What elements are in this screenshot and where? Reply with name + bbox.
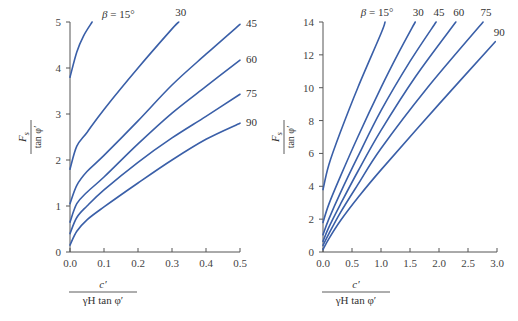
svg-text:c′: c′ <box>352 278 360 290</box>
curve-beta-15 <box>70 22 92 77</box>
y-tick-label: 4 <box>56 62 62 74</box>
x-tick-label: 0.5 <box>233 257 247 269</box>
svg-text:γH tan φ′: γH tan φ′ <box>82 294 124 306</box>
y-tick-label: 0 <box>56 246 62 258</box>
curve-label: 60 <box>453 6 465 18</box>
svg-text:Fs: Fs <box>269 132 284 143</box>
svg-text:Fs: Fs <box>16 132 31 143</box>
x-tick-label: 2.5 <box>461 257 475 269</box>
x-tick-label: 0.2 <box>131 257 145 269</box>
x-tick-label: 0.0 <box>63 257 77 269</box>
curve-label: 30 <box>175 6 187 18</box>
curve-label: 30 <box>413 6 425 18</box>
x-tick-label: 0.1 <box>97 257 111 269</box>
curve-beta-45 <box>323 22 436 235</box>
y-tick-label: 2 <box>56 154 62 166</box>
y-tick-label: 2 <box>309 213 315 225</box>
y-tick-label: 0 <box>309 246 315 258</box>
y-tick-label: 5 <box>56 16 62 28</box>
x-tick-label: 0.5 <box>345 257 359 269</box>
left-chart: 0.00.10.20.30.40.5012345β = 15°304560759… <box>56 6 258 269</box>
y-tick-label: 6 <box>309 147 315 159</box>
x-tick-label: 2.0 <box>432 257 446 269</box>
y-tick-label: 3 <box>56 108 62 120</box>
y-tick-label: 10 <box>303 82 315 94</box>
curve-label: 45 <box>246 17 258 29</box>
x-tick-label: 0.3 <box>165 257 179 269</box>
x-tick-label: 0.0 <box>316 257 330 269</box>
x-tick-label: 1.0 <box>374 257 388 269</box>
right-y-axis-label: Fs tan φ′ <box>269 120 296 154</box>
x-tick-label: 3.0 <box>490 257 504 269</box>
svg-text:c′: c′ <box>99 278 107 290</box>
curve-label: β = 15° <box>101 8 135 20</box>
svg-text:tan φ′: tan φ′ <box>285 126 296 149</box>
svg-text:γH tan φ′: γH tan φ′ <box>335 294 377 306</box>
curve-label: 45 <box>434 6 446 18</box>
y-tick-label: 8 <box>309 115 315 127</box>
right-x-axis-label: c′ γH tan φ′ <box>322 278 390 306</box>
y-tick-label: 4 <box>309 180 315 192</box>
curve-label: 90 <box>246 116 258 128</box>
y-tick-label: 1 <box>56 200 62 212</box>
curve-label: 75 <box>481 6 493 18</box>
left-y-axis-label: Fs tan φ′ <box>16 120 43 154</box>
left-x-axis-label: c′ γH tan φ′ <box>69 278 137 306</box>
y-tick-label: 14 <box>303 16 315 28</box>
svg-text:tan φ′: tan φ′ <box>32 126 43 149</box>
x-tick-label: 1.5 <box>403 257 417 269</box>
x-tick-label: 0.4 <box>199 257 213 269</box>
curve-label: 75 <box>246 87 258 99</box>
curve-beta-90 <box>323 42 495 250</box>
y-tick-label: 12 <box>303 49 314 61</box>
curve-label: 90 <box>494 26 506 38</box>
right-chart: 0.00.51.01.52.02.53.002468101214β = 15°3… <box>303 6 505 269</box>
curve-beta-45 <box>70 24 240 203</box>
curve-label: β = 15° <box>360 6 394 18</box>
chart-canvas: 0.00.10.20.30.40.5012345β = 15°304560759… <box>0 0 518 321</box>
curve-label: 60 <box>246 53 258 65</box>
